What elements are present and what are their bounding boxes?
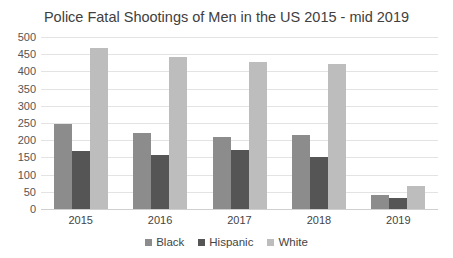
chart-title: Police Fatal Shootings of Men in the US … bbox=[0, 9, 453, 25]
legend-item-hispanic: Hispanic bbox=[198, 236, 253, 248]
y-tick-label: 200 bbox=[0, 134, 36, 146]
bar-black-2017 bbox=[213, 137, 231, 209]
gridline bbox=[41, 37, 438, 38]
legend-label: Hispanic bbox=[209, 236, 253, 248]
bar-white-2019 bbox=[407, 186, 425, 209]
y-tick-label: 250 bbox=[0, 117, 36, 129]
bar-black-2019 bbox=[371, 195, 389, 209]
legend-item-white: White bbox=[267, 236, 307, 248]
x-tick-label: 2016 bbox=[130, 214, 190, 226]
y-tick-label: 450 bbox=[0, 48, 36, 60]
bar-hispanic-2017 bbox=[231, 150, 249, 209]
x-tick-label: 2018 bbox=[289, 214, 349, 226]
legend-swatch-icon bbox=[145, 239, 152, 246]
bar-hispanic-2018 bbox=[310, 157, 328, 209]
legend-label: Black bbox=[156, 236, 184, 248]
chart: Police Fatal Shootings of Men in the US … bbox=[0, 0, 453, 258]
bar-white-2015 bbox=[90, 48, 108, 209]
y-tick-label: 350 bbox=[0, 83, 36, 95]
bar-hispanic-2015 bbox=[72, 151, 90, 209]
bar-black-2018 bbox=[292, 135, 310, 209]
y-tick-label: 300 bbox=[0, 100, 36, 112]
bar-black-2016 bbox=[133, 133, 151, 209]
y-tick-label: 100 bbox=[0, 169, 36, 181]
x-tick-label: 2019 bbox=[368, 214, 428, 226]
y-tick-label: 400 bbox=[0, 65, 36, 77]
bar-white-2018 bbox=[328, 64, 346, 209]
legend-swatch-icon bbox=[267, 239, 274, 246]
bar-white-2017 bbox=[249, 62, 267, 209]
bar-hispanic-2016 bbox=[151, 155, 169, 209]
x-tick-label: 2015 bbox=[51, 214, 111, 226]
bar-black-2015 bbox=[54, 124, 72, 209]
y-tick-label: 0 bbox=[0, 203, 36, 215]
y-tick-label: 150 bbox=[0, 151, 36, 163]
legend: BlackHispanicWhite bbox=[0, 236, 453, 248]
gridline bbox=[41, 209, 438, 210]
y-tick-label: 500 bbox=[0, 31, 36, 43]
plot-area bbox=[41, 37, 438, 209]
y-tick-label: 50 bbox=[0, 186, 36, 198]
legend-item-black: Black bbox=[145, 236, 184, 248]
x-tick-label: 2017 bbox=[210, 214, 270, 226]
legend-swatch-icon bbox=[198, 239, 205, 246]
bar-white-2016 bbox=[169, 57, 187, 209]
legend-label: White bbox=[278, 236, 307, 248]
bar-hispanic-2019 bbox=[389, 198, 407, 209]
